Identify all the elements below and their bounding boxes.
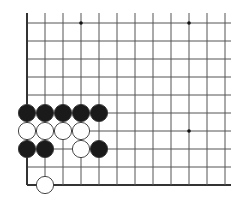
white-stone[interactable] [36,122,53,139]
black-stone[interactable] [54,104,71,121]
star-point [187,129,191,133]
black-stone[interactable] [18,104,35,121]
black-stone[interactable] [72,104,89,121]
go-board-grid [0,0,244,206]
black-stone[interactable] [18,140,35,157]
white-stone[interactable] [72,122,89,139]
white-stone[interactable] [54,122,71,139]
black-stone[interactable] [90,140,107,157]
white-stone[interactable] [36,176,53,193]
white-stone[interactable] [72,140,89,157]
grid-lines [27,13,231,185]
black-stone[interactable] [36,104,53,121]
black-stone[interactable] [90,104,107,121]
star-point [187,21,191,25]
black-stone[interactable] [36,140,53,157]
star-point [79,21,83,25]
white-stone[interactable] [18,122,35,139]
go-board[interactable] [0,0,244,206]
